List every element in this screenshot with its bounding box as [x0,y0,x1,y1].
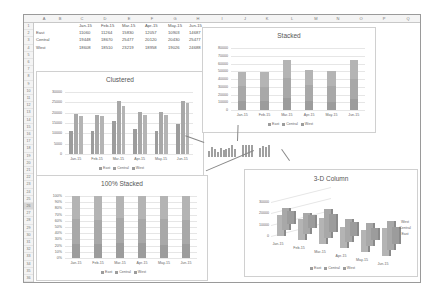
bar-east[interactable] [155,131,159,154]
value-cell[interactable]: 11264 [101,30,112,35]
bar-central[interactable] [159,112,163,154]
row-header-8[interactable]: 8 [24,73,33,80]
bar-3d-east[interactable] [329,214,338,232]
percent-stacked-chart[interactable]: 100% Stacked0%10%20%30%40%50%60%70%80%90… [36,175,208,281]
row-header-36[interactable]: 36 [24,275,33,282]
row-header-22[interactable]: 22 [24,174,33,181]
column-header-N[interactable]: N [328,15,348,22]
bar-west[interactable] [327,71,335,86]
value-cell[interactable]: 25477 [189,37,201,42]
bar-west[interactable] [94,196,102,220]
header-cell[interactable]: Jan-15 [79,23,92,28]
bar-central[interactable] [305,85,313,101]
bar-central[interactable] [160,219,168,244]
column-header-F[interactable]: F [142,15,162,22]
bar-3d-east[interactable] [287,211,296,224]
value-cell[interactable]: 10903 [168,30,180,35]
row-header-31[interactable]: 31 [24,239,33,246]
bar-west[interactable] [160,196,168,219]
bar-west[interactable] [283,60,291,78]
value-cell[interactable]: 25477 [122,37,134,42]
bar-3d-east[interactable] [308,215,317,228]
row-header-13[interactable]: 13 [24,109,33,116]
row-header-12[interactable]: 12 [24,102,33,109]
column-header-M[interactable]: M [306,15,326,22]
bar-east[interactable] [94,244,102,258]
bar-3d-east[interactable] [371,228,380,240]
row-header-19[interactable]: 19 [24,153,33,160]
bar-central[interactable] [283,78,291,98]
row-header-2[interactable]: 2 [24,30,33,37]
bar-central[interactable] [74,114,78,154]
row-header-18[interactable]: 18 [24,145,33,152]
row-label-cell[interactable]: West [36,45,45,50]
bar-central[interactable] [181,101,185,154]
column-header-I[interactable]: I [212,15,232,22]
bar-east[interactable] [91,131,95,154]
row-header-28[interactable]: 28 [24,217,33,224]
column-header-D[interactable]: D [95,15,115,22]
bar-east[interactable] [350,99,358,110]
bar-west[interactable] [100,116,104,154]
bar-central[interactable] [350,79,358,99]
row-header-9[interactable]: 9 [24,81,33,88]
column-header-G[interactable]: G [165,15,185,22]
column-header-J[interactable]: J [235,15,255,22]
bar-central[interactable] [238,86,246,101]
bar-3d-east[interactable] [350,222,359,236]
value-cell[interactable]: 15830 [122,30,134,35]
bar-east[interactable] [182,244,190,258]
bar-east[interactable] [283,98,291,110]
value-cell[interactable]: 19026 [168,45,180,50]
row-header-30[interactable]: 30 [24,232,33,239]
row-header-27[interactable]: 27 [24,210,33,217]
row-header-26[interactable]: 26 [24,203,33,210]
bar-central[interactable] [95,115,99,154]
column-header-L[interactable]: L [282,15,302,22]
value-cell[interactable]: 19448 [79,37,91,42]
bar-central[interactable] [138,112,142,154]
row-header-17[interactable]: 17 [24,138,33,145]
value-cell[interactable]: 14687 [189,30,201,35]
row-header-1[interactable]: 1 [24,23,33,30]
bar-central[interactable] [138,219,146,243]
bar-east[interactable] [112,121,116,154]
row-header-10[interactable]: 10 [24,88,33,95]
bar-east[interactable] [138,243,146,258]
row-header-4[interactable]: 4 [24,45,33,52]
bar-west[interactable] [182,196,190,220]
bar-west[interactable] [350,60,358,79]
bar-west[interactable] [79,116,83,154]
row-header-24[interactable]: 24 [24,189,33,196]
value-cell[interactable]: 20120 [145,37,157,42]
bar-east[interactable] [327,102,335,110]
bar-central[interactable] [260,87,268,101]
row-header-11[interactable]: 11 [24,95,33,102]
row-header-29[interactable]: 29 [24,225,33,232]
bar-east[interactable] [69,131,73,154]
row-label-cell[interactable]: East [36,30,44,35]
header-cell[interactable]: Jun-15 [189,23,202,28]
bar-central[interactable] [72,219,80,244]
value-cell[interactable]: 11060 [79,30,90,35]
row-label-cell[interactable]: Central [36,37,50,42]
bar-central[interactable] [94,220,102,244]
row-header-7[interactable]: 7 [24,66,33,73]
bar-east[interactable] [133,129,137,154]
row-header-35[interactable]: 35 [24,268,33,275]
column-header-H[interactable]: H [188,15,208,22]
bar-east[interactable] [72,244,80,258]
bar-east[interactable] [176,124,180,154]
value-cell[interactable]: 24688 [189,45,201,50]
stacked-chart[interactable]: Stacked010000200003000040000500006000070… [202,27,376,133]
column-header-B[interactable]: B [50,15,70,22]
column-header-C[interactable]: C [72,15,92,22]
header-cell[interactable]: Feb-15 [101,23,114,28]
clustered-chart[interactable]: Clustered050001000015000200002500030000J… [36,71,204,177]
row-header-23[interactable]: 23 [24,181,33,188]
header-cell[interactable]: May-15 [168,23,182,28]
bar-central[interactable] [182,220,190,244]
3d-column-chart[interactable]: 3-D Column0100002000030000Jan-15Feb-15Ma… [244,169,418,277]
bar-east[interactable] [160,245,168,258]
row-header-6[interactable]: 6 [24,59,33,66]
